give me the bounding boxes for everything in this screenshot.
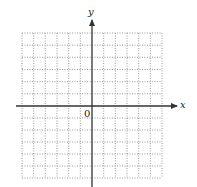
x-axis-label: x	[180, 100, 186, 110]
origin-label: 0	[84, 109, 90, 119]
y-axis-label: y	[88, 7, 94, 17]
coordinate-plane	[0, 0, 197, 187]
